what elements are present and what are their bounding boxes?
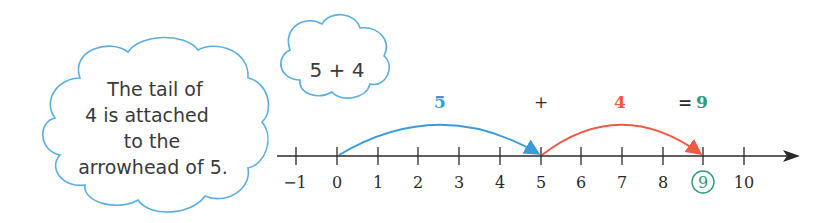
tick-label: 7: [617, 173, 627, 192]
tick-label: 3: [454, 173, 464, 192]
tick-label: 0: [332, 173, 342, 192]
expression-text: 5 + 4: [310, 58, 365, 82]
tick-labels: −1 0 1 2 3 4 5 6 7 8 9 10: [283, 173, 754, 192]
equals-sign: =: [678, 92, 692, 112]
thought-cloud-note: The tail of 4 is attached to the arrowhe…: [43, 37, 269, 212]
cloud-outline-small: [281, 15, 389, 98]
jump-arc-blue: [339, 125, 539, 155]
plus-sign: +: [534, 92, 548, 112]
tick-label: 8: [658, 173, 668, 192]
tick-label: 5: [536, 173, 546, 192]
cloud-note-line-1: The tail of: [106, 78, 204, 100]
tick-label: −1: [283, 173, 307, 192]
equation-labels: 5 + 4 = 9: [434, 92, 708, 112]
tick-label: 1: [373, 173, 383, 192]
tick-label: 6: [576, 173, 586, 192]
tick-label: 10: [734, 173, 754, 192]
tick-label: 2: [413, 173, 423, 192]
cloud-note-line-4: arrowhead of 5.: [78, 156, 228, 178]
thought-cloud-expression: 5 + 4: [281, 15, 389, 98]
number-line-diagram: The tail of 4 is attached to the arrowhe…: [0, 0, 836, 223]
second-addend-label: 4: [614, 92, 626, 112]
number-line-axis: [277, 147, 800, 165]
first-addend-label: 5: [434, 92, 446, 112]
tick-label-circled: 9: [698, 173, 708, 192]
cloud-note-line-3: to the: [124, 130, 180, 152]
cloud-note-line-2: 4 is attached: [85, 104, 209, 126]
result-label: 9: [696, 92, 708, 112]
tick-label: 4: [495, 173, 505, 192]
